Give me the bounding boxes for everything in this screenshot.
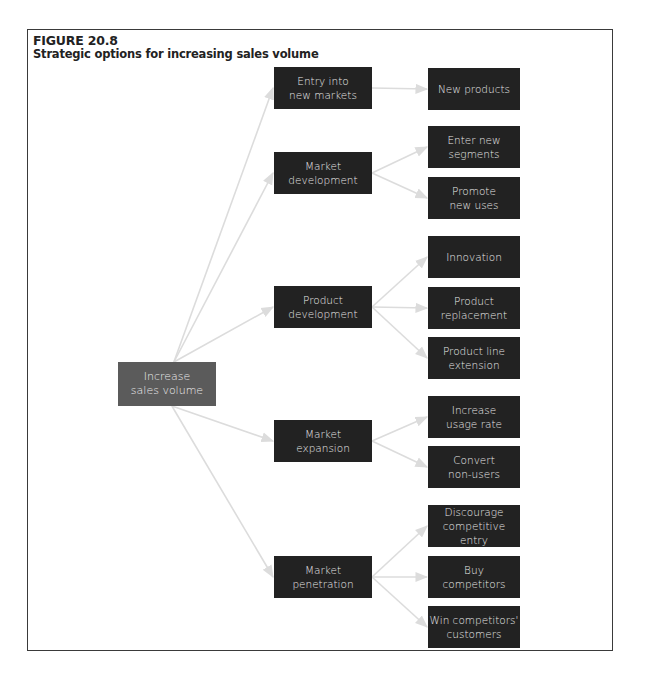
node-discourage-competitive-entry: Discourage competitive entry (428, 505, 520, 547)
edge-s4-o10 (372, 577, 427, 627)
edge-root-s3 (172, 406, 273, 441)
edge-root-s4 (172, 406, 273, 577)
node-product-line-extension: Product line extension (428, 337, 520, 379)
node-new-products: New products (428, 68, 520, 110)
edge-s1-o2 (372, 173, 427, 198)
node-convert-non-users: Convert non-users (428, 446, 520, 488)
node-product-development: Product development (274, 286, 372, 328)
node-increase-usage-rate: Increase usage rate (428, 396, 520, 438)
edge-s2-o4 (372, 307, 427, 308)
node-win-competitors-customers: Win competitors' customers (428, 606, 520, 648)
node-market-penetration: Market penetration (274, 556, 372, 598)
edge-root-s0 (174, 88, 273, 362)
node-increase-sales-volume: Increase sales volume (118, 362, 216, 406)
node-promote-new-uses: Promote new uses (428, 177, 520, 219)
node-product-replacement: Product replacement (428, 287, 520, 329)
node-innovation: Innovation (428, 236, 520, 278)
edge-s2-o3 (372, 257, 427, 307)
node-entry-into-new-markets: Entry into new markets (274, 67, 372, 109)
node-enter-new-segments: Enter new segments (428, 126, 520, 168)
edge-s4-o8 (372, 526, 427, 577)
edge-s1-o1 (372, 147, 427, 173)
node-market-expansion: Market expansion (274, 420, 372, 462)
edge-s0-o0 (372, 88, 427, 89)
edge-s2-o5 (372, 307, 427, 358)
node-buy-competitors: Buy competitors (428, 556, 520, 598)
edge-s3-o7 (372, 441, 427, 467)
node-market-development: Market development (274, 152, 372, 194)
edge-s3-o6 (372, 417, 427, 441)
